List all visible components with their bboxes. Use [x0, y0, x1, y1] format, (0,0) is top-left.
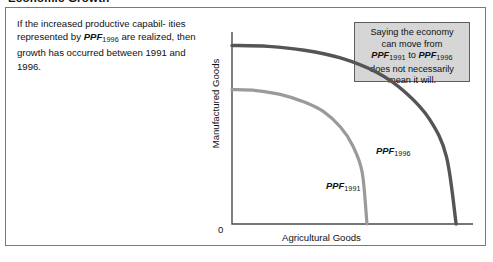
explanation-paragraph: If the increased productive capabil- iti…	[17, 17, 203, 73]
page-title: Economic Growth	[8, 0, 109, 4]
ppf-1991-sub: 1991	[344, 184, 360, 193]
x-axis-label: Agricultural Goods	[282, 232, 361, 243]
chart-canvas	[196, 14, 481, 244]
ppf-1991-curve	[232, 90, 367, 224]
explanation-line-2-post: are	[119, 31, 136, 42]
ppf-1996-annotation: PPF1996	[376, 145, 411, 158]
ppf-label: PPF	[84, 31, 103, 42]
ppf-subscript-1996: 1996	[102, 35, 118, 44]
ppf-1996-text: PPF	[376, 145, 394, 156]
ppf-1991-annotation: PPF1991	[326, 180, 361, 193]
ppf-1991-term: PPF1991	[326, 180, 361, 191]
ppf-1996-curve	[232, 45, 456, 224]
ppf-1991-text: PPF	[326, 180, 344, 191]
y-axis-label: Manufactured Goods	[210, 44, 221, 164]
ppf-term-inline: PPF1996	[84, 31, 119, 42]
ppf-1996-term: PPF1996	[376, 145, 411, 156]
origin-label: 0	[218, 224, 223, 235]
explanation-line-1: If the increased productive capabil-	[17, 18, 166, 29]
ppf-chart: Manufactured Goods Agricultural Goods 0 …	[196, 14, 481, 244]
ppf-1996-sub: 1996	[394, 149, 410, 158]
